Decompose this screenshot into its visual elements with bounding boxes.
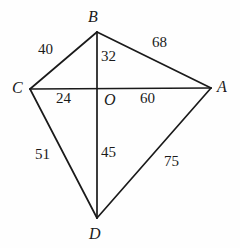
vertex-label-B: B (88, 9, 98, 25)
segment-measure-CO: 24 (56, 91, 71, 106)
vertex-label-C: C (12, 80, 23, 96)
edge-measure-CD: 51 (35, 147, 50, 162)
segment-measure-OD: 45 (101, 145, 116, 160)
geometry-figure: B C A D O 40 68 51 75 32 24 60 45 (0, 0, 240, 248)
diagonal-CA (30, 88, 211, 89)
vertex-label-O: O (104, 92, 116, 108)
figure-canvas (0, 0, 240, 248)
edge-measure-BA: 68 (152, 35, 167, 50)
edge-measure-DA: 75 (164, 154, 179, 169)
edge-measure-CB: 40 (38, 42, 53, 57)
vertex-label-D: D (89, 226, 101, 242)
vertex-label-A: A (217, 79, 227, 95)
segment-measure-BO: 32 (101, 49, 116, 64)
segment-measure-OA: 60 (140, 91, 155, 106)
